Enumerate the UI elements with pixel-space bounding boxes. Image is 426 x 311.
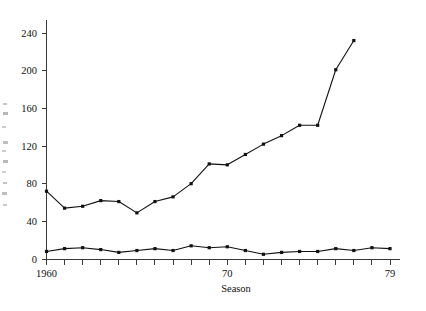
data-point-marker [63,247,66,250]
data-point-marker [280,134,283,137]
chart-container: 04080120160200240 19607079 Season [0,0,426,311]
series-lower-series [45,244,392,256]
data-point-marker [45,250,48,253]
y-axis-tick-labels: 04080120160200240 [21,28,37,265]
x-tick-label: 70 [222,268,233,279]
data-point-marker [171,195,174,198]
data-point-marker [298,124,301,127]
data-point-marker [190,244,193,247]
data-series-layer [45,39,392,256]
data-point-marker [388,247,391,250]
data-point-marker [352,39,355,42]
y-tick-label: 40 [27,216,38,227]
y-tick-label: 120 [21,141,37,152]
data-point-marker [208,246,211,249]
y-tick-label: 200 [21,65,37,76]
series-line [47,41,354,213]
data-point-marker [280,251,283,254]
data-point-marker [99,248,102,251]
x-axis-title: Season [221,283,251,294]
data-point-marker [298,250,301,253]
data-point-marker [117,251,120,254]
data-point-marker [63,207,66,210]
data-point-marker [244,249,247,252]
data-point-marker [190,182,193,185]
data-point-marker [334,68,337,71]
y-tick-label: 240 [21,28,37,39]
data-point-marker [208,162,211,165]
data-point-marker [316,250,319,253]
data-point-marker [334,247,337,250]
x-axis-ticks [47,260,391,265]
data-point-marker [316,124,319,127]
y-axis-side-marks [2,103,8,206]
data-point-marker [135,249,138,252]
y-tick-label: 160 [21,103,37,114]
y-tick-label: 0 [32,254,37,265]
series-line [47,246,391,254]
data-point-marker [171,249,174,252]
data-point-marker [153,247,156,250]
data-point-marker [262,253,265,256]
line-chart: 04080120160200240 19607079 Season [0,0,426,311]
data-point-marker [244,153,247,156]
x-axis-tick-labels: 19607079 [36,268,395,279]
data-point-marker [153,200,156,203]
data-point-marker [226,163,229,166]
data-point-marker [81,205,84,208]
data-point-marker [135,211,138,214]
series-upper-series [45,39,356,215]
data-point-marker [117,200,120,203]
data-point-marker [99,199,102,202]
y-tick-label: 80 [27,178,38,189]
data-point-marker [370,246,373,249]
y-axis-ticks [42,33,47,259]
data-point-marker [352,249,355,252]
data-point-marker [226,245,229,248]
data-point-marker [262,143,265,146]
data-point-marker [45,190,48,193]
x-tick-label: 79 [385,268,396,279]
data-point-marker [81,246,84,249]
x-tick-label: 1960 [36,268,57,279]
